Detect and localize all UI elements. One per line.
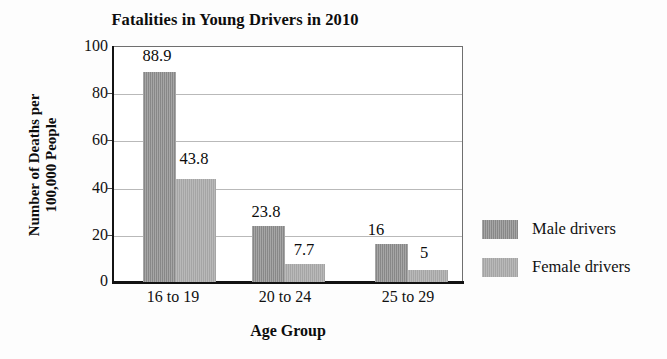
y-axis-title-text: Number of Deaths per 100,000 People [26,94,60,237]
legend: Male drivers Female drivers [482,210,662,286]
value-label-female-25-to-29: 5 [404,243,444,263]
y-axis-tick-labels: 100 80 60 40 20 0 [62,0,108,359]
value-label-female-16-to-19: 43.8 [164,149,224,169]
legend-swatch-male-icon [482,220,518,239]
legend-label-male-drivers: Male drivers [532,219,616,239]
y-axis-title-line-1: Number of Deaths per [26,94,42,237]
y-axis-title: Number of Deaths per 100,000 People [20,60,66,270]
x-tick-label-16-to-19: 16 to 19 [113,288,233,306]
x-tick-label-25-to-29: 25 to 29 [348,288,468,306]
y-axis-title-line-2: 100,000 People [43,118,59,213]
x-tick-label-20-to-24: 20 to 24 [225,288,345,306]
bar-chart-figure: Fatalities in Young Drivers in 2010 Numb… [0,0,667,359]
bar-female-20-to-24[interactable] [285,264,325,282]
y-tick-label-80: 80 [66,84,108,102]
y-tick-label-40: 40 [66,179,108,197]
y-tick-label-100: 100 [66,37,108,55]
y-tick-label-60: 60 [66,131,108,149]
legend-label-female-drivers: Female drivers [532,257,631,277]
bar-female-25-to-29[interactable] [408,270,448,282]
x-axis-title: Age Group [113,322,463,340]
legend-item-female-drivers[interactable]: Female drivers [482,248,662,286]
legend-item-male-drivers[interactable]: Male drivers [482,210,662,248]
y-tick-label-0: 0 [66,272,108,290]
value-label-male-20-to-24: 23.8 [236,202,296,222]
value-label-male-16-to-19: 88.9 [127,46,187,66]
bar-female-16-to-19[interactable] [176,179,216,282]
legend-swatch-female-icon [482,258,518,277]
bar-male-16-to-19[interactable] [143,72,176,282]
value-label-female-20-to-24: 7.7 [274,240,334,260]
value-label-male-25-to-29: 16 [356,220,396,240]
y-tick-label-20: 20 [66,226,108,244]
